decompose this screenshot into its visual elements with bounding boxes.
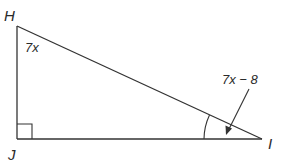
arrowhead-icon xyxy=(226,126,233,136)
right-angle-marker xyxy=(17,124,32,139)
angle-label-h: 7x xyxy=(25,40,39,55)
angle-arc-i xyxy=(204,115,210,139)
vertex-label-h: H xyxy=(4,7,15,24)
angle-label-i: 7x − 8 xyxy=(222,72,259,87)
triangle-diagram: H J I 7x 7x − 8 xyxy=(0,0,282,166)
angle-pointer-line xyxy=(228,89,249,131)
vertex-label-j: J xyxy=(7,146,16,163)
vertex-label-i: I xyxy=(268,135,272,152)
